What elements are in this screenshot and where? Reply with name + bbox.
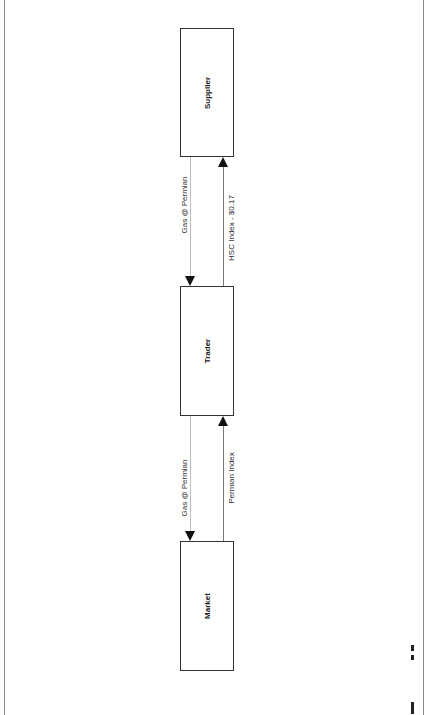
- payment-line-market-trader: [223, 426, 224, 541]
- edge-label-permian-index: Permian Index: [227, 452, 236, 504]
- arrow-down-icon: [185, 276, 195, 286]
- edge-label-hsc-index: HSC Index - $0.17: [227, 195, 236, 261]
- edge-label-gas-supplier: Gas @ Permian: [180, 176, 189, 233]
- caption-mark: [411, 702, 414, 714]
- supplier-label: Supplier: [203, 76, 212, 108]
- arrow-down-icon: [185, 531, 195, 541]
- caption-mark: [411, 645, 414, 651]
- gas-flow-line-supplier-trader: [190, 157, 191, 276]
- page-border-right: [423, 0, 424, 715]
- supplier-node: Supplier: [180, 28, 234, 157]
- caption-mark: [411, 655, 414, 660]
- trader-label: Trader: [203, 339, 212, 363]
- edge-label-gas-market: Gas @ Permian: [180, 459, 189, 516]
- gas-flow-line-trader-market: [190, 416, 191, 531]
- market-node: Market: [180, 541, 234, 671]
- arrow-up-icon: [218, 416, 228, 426]
- arrow-up-icon: [218, 157, 228, 167]
- market-label: Market: [203, 593, 212, 619]
- payment-line-trader-supplier: [223, 167, 224, 286]
- page-border-left: [4, 0, 5, 715]
- trader-node: Trader: [180, 286, 234, 416]
